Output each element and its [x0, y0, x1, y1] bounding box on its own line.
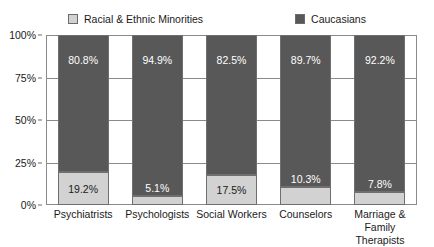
legend-swatch-icon-minorities: [68, 14, 78, 24]
bar-segment-caucasians[interactable]: 82.5%: [206, 35, 257, 175]
x-axis-category-label: Psychiatrists: [46, 208, 120, 221]
legend-label-caucasians: Caucasians: [311, 13, 366, 25]
bar-segment-caucasians[interactable]: 92.2%: [354, 35, 405, 192]
bar-value-label: 5.1%: [132, 182, 183, 194]
x-axis-category-line: Counselors: [279, 208, 332, 220]
bar-segment-caucasians[interactable]: 94.9%: [132, 35, 183, 196]
bar-value-label: 10.3%: [280, 173, 331, 185]
y-axis-tick-label: 50%: [15, 115, 36, 126]
bar-group[interactable]: 82.5%17.5%: [206, 35, 257, 205]
y-axis-tick-label: 0%: [21, 200, 36, 211]
bar-segment-minorities[interactable]: [280, 187, 331, 205]
bar-segment-caucasians[interactable]: 80.8%: [58, 35, 109, 172]
bar-segment-minorities[interactable]: [132, 196, 183, 205]
x-axis-category-line: Social Workers: [196, 208, 266, 220]
y-axis-tick-mark: [38, 77, 42, 78]
x-axis-category-label: Psychologists: [120, 208, 194, 221]
bar-value-label: 92.2%: [355, 54, 404, 66]
y-axis-tick-label: 100%: [9, 30, 36, 41]
stacked-bar-chart: Racial & Ethnic Minorities Caucasians 0%…: [0, 0, 434, 247]
bar-value-label: 7.8%: [354, 178, 405, 190]
y-axis-tick-mark: [38, 120, 42, 121]
bar-segment-caucasians[interactable]: 89.7%: [280, 35, 331, 187]
x-axis-category-label: Social Workers: [194, 208, 268, 221]
x-axis-category-line: Marriage &: [354, 208, 405, 220]
y-axis-tick-label: 75%: [15, 72, 36, 83]
x-axis-category-line: Psychiatrists: [54, 208, 113, 220]
y-axis-tick-mark: [38, 162, 42, 163]
legend-label-minorities: Racial & Ethnic Minorities: [84, 13, 203, 25]
y-axis: 0%25%50%75%100%: [0, 35, 42, 205]
legend-item-minorities: Racial & Ethnic Minorities: [68, 10, 203, 28]
x-axis-category-line: Psychologists: [125, 208, 189, 220]
legend-item-caucasians: Caucasians: [295, 10, 366, 28]
bar-group[interactable]: 89.7%10.3%: [280, 35, 331, 205]
legend-swatch-icon-caucasians: [295, 14, 305, 24]
y-axis-tick-mark: [38, 205, 42, 206]
bar-group[interactable]: 94.9%5.1%: [132, 35, 183, 205]
bar-value-label: 94.9%: [133, 54, 182, 66]
bar-segment-minorities[interactable]: [354, 192, 405, 205]
x-axis: PsychiatristsPsychologistsSocial Workers…: [46, 208, 417, 246]
bar-value-label: 80.8%: [59, 54, 108, 66]
bar-group[interactable]: 92.2%7.8%: [354, 35, 405, 205]
bar-value-label: 19.2%: [58, 183, 109, 195]
bar-value-label: 82.5%: [207, 54, 256, 66]
x-axis-category-line: Family Therapists: [343, 221, 417, 247]
x-axis-category-label: Marriage &Family Therapists: [343, 208, 417, 247]
bar-group[interactable]: 80.8%19.2%: [58, 35, 109, 205]
bar-series-container: 80.8%19.2%94.9%5.1%82.5%17.5%89.7%10.3%9…: [46, 35, 417, 205]
bar-value-label: 89.7%: [281, 54, 330, 66]
y-axis-tick-label: 25%: [15, 157, 36, 168]
bar-value-label: 17.5%: [206, 184, 257, 196]
chart-legend: Racial & Ethnic Minorities Caucasians: [0, 10, 434, 28]
y-axis-tick-mark: [38, 35, 42, 36]
x-axis-category-label: Counselors: [269, 208, 343, 221]
